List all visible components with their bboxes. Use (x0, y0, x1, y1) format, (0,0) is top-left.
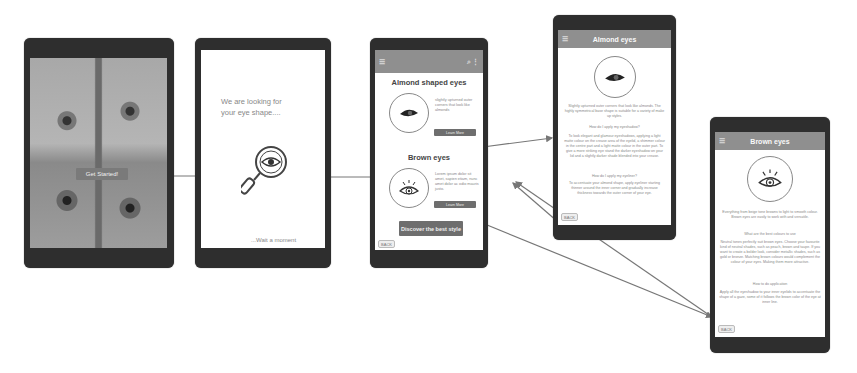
phone-start-screen: Get Started! (24, 38, 174, 268)
wait-text: ...Wait a moment (251, 237, 296, 243)
brown-application-heading: How to do application (719, 282, 821, 287)
start-screen: Get Started! (30, 58, 167, 248)
more-options-icon[interactable]: ⋮ (472, 58, 479, 66)
magnifier-eye-icon (241, 140, 291, 200)
brown-detail-screen: ☰ Brown eyes Everything from beige tone … (715, 132, 825, 337)
brown-colours-heading: What are the best colours to use (719, 232, 821, 237)
brown-colours-text: Neutral tones perfectly suit brown eyes.… (719, 240, 821, 265)
phone-almond-detail-screen: ☰ Almond eyes Slightly upturned outer co… (553, 15, 676, 240)
back-button[interactable]: BACK (718, 325, 735, 333)
almond-eyeliner-text: To accentuate your almond shape, apply e… (564, 181, 665, 196)
menu-icon[interactable]: ☰ (379, 58, 385, 66)
results-app-bar: ☰ ⌕ ⋮ (375, 50, 483, 73)
menu-icon[interactable]: ☰ (719, 137, 725, 145)
brown-eye-icon-circle (389, 168, 429, 208)
brown-eyes-learn-more-button[interactable]: Learn More (434, 201, 476, 208)
brown-eyes-title: Brown eyes (375, 153, 483, 162)
get-started-button[interactable]: Get Started! (76, 168, 128, 180)
almond-learn-more-button[interactable]: Learn More (434, 129, 476, 136)
brown-application-text: Apply all the eyeshadow to your inner ey… (719, 290, 821, 305)
almond-eye-icon (399, 108, 419, 118)
phone-results-screen: ☰ ⌕ ⋮ Almond shaped eyes slightly upturn… (370, 38, 488, 268)
searching-heading: We are looking for your eye shape.... (221, 96, 297, 118)
brown-detail-eye-circle (747, 156, 793, 202)
brown-detail-title: Brown eyes (750, 138, 789, 145)
eyes-photo-collage (30, 58, 167, 248)
almond-eyeliner-heading: How do I apply my eyeliner? (564, 174, 665, 179)
back-button[interactable]: BACK (561, 213, 578, 221)
phone-searching-screen: We are looking for your eye shape.... ..… (195, 38, 331, 268)
almond-detail-title: Almond eyes (593, 36, 637, 43)
almond-description: slightly upturned outer corners that loo… (435, 98, 477, 113)
phone-brown-eyes-detail-screen: ☰ Brown eyes Everything from beige tone … (710, 117, 830, 353)
results-screen: ☰ ⌕ ⋮ Almond shaped eyes slightly upturn… (375, 50, 483, 250)
brown-eyes-description: Lorem ipsum dolor sit amet, sapien etiam… (435, 172, 479, 192)
brown-eye-icon (398, 179, 420, 197)
almond-eyeshadow-text: To look elegant and glamour eyeshadows, … (564, 134, 665, 159)
almond-detail-screen: ☰ Almond eyes Slightly upturned outer co… (558, 30, 671, 225)
menu-icon[interactable]: ☰ (562, 35, 568, 43)
almond-eye-icon (604, 72, 626, 83)
almond-eye-icon-circle (389, 93, 429, 133)
search-icon[interactable]: ⌕ (467, 58, 471, 66)
brown-app-bar: ☰ Brown eyes (715, 132, 825, 150)
almond-detail-eye-circle (594, 56, 636, 98)
brown-eye-icon (757, 168, 783, 190)
almond-title: Almond shaped eyes (375, 78, 483, 87)
brown-intro: Everything from beige tone browns to lig… (719, 210, 821, 220)
discover-best-style-button[interactable]: Discover the best style (399, 221, 463, 236)
back-button[interactable]: BACK (378, 240, 395, 248)
almond-app-bar: ☰ Almond eyes (558, 30, 671, 48)
almond-eyeshadow-heading: How do I apply my eyeshadow? (564, 125, 665, 130)
searching-screen: We are looking for your eye shape.... ..… (201, 50, 325, 248)
almond-intro: Slightly upturned outer corners that loo… (564, 104, 665, 119)
